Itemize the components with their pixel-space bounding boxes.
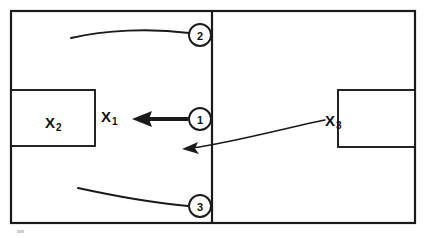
leader-line-3 [78,188,188,206]
label-x1-base: X [101,108,111,125]
diagram-canvas: 2 1 3 X 2 X 1 X 3 [0,0,424,238]
callout-1[interactable]: 1 [189,108,211,130]
callout-1-number: 1 [197,114,203,126]
label-x2-base: X [45,114,55,131]
scan-smudge-artifact [17,230,24,233]
callout-2[interactable]: 2 [189,24,211,46]
label-x3-base: X [325,112,335,129]
label-x2-subscript: 2 [56,122,62,133]
label-x1-subscript: 1 [112,116,118,127]
leader-line-2 [71,30,189,38]
arrow-to-x1-head [132,111,152,127]
box-x3 [338,90,415,147]
label-x3-subscript: 3 [336,120,342,131]
label-x1: X 1 [101,108,118,127]
callout-3-number: 3 [197,201,203,213]
callout-2-number: 2 [197,30,203,42]
callout-3[interactable]: 3 [189,195,211,217]
schematic-drawing: 2 1 3 X 2 X 1 X 3 [0,0,424,238]
